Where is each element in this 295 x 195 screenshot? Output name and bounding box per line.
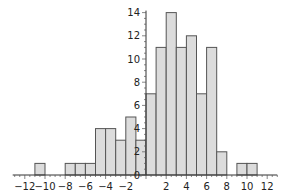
x-tick-label: −10 xyxy=(34,181,55,192)
histogram-bar xyxy=(96,129,106,175)
y-tick-label: 8 xyxy=(134,77,140,88)
histogram-chart: −12−10−8−6−4−22468101224681012140 xyxy=(0,0,295,195)
histogram-bar xyxy=(197,94,207,175)
histogram-bar xyxy=(35,163,45,175)
x-tick-label: 2 xyxy=(163,181,169,192)
histogram-bar xyxy=(237,163,247,175)
histogram-bar xyxy=(75,163,85,175)
x-tick-label: −4 xyxy=(98,181,113,192)
histogram-bar xyxy=(85,163,95,175)
histogram-bar xyxy=(116,140,126,175)
histogram-bar xyxy=(217,152,227,175)
y-tick-label: 4 xyxy=(134,123,140,134)
histogram-bar xyxy=(166,13,176,175)
x-tick-label: 4 xyxy=(183,181,189,192)
x-tick-label: 8 xyxy=(224,181,230,192)
histogram-bar xyxy=(176,47,186,175)
y-tick-label: 12 xyxy=(127,30,140,41)
y-tick-label: 6 xyxy=(134,100,140,111)
histogram-bar xyxy=(146,94,156,175)
x-tick-label: 12 xyxy=(261,181,274,192)
x-tick-label: −2 xyxy=(118,181,133,192)
histogram-bar xyxy=(156,47,166,175)
origin-label: 0 xyxy=(134,170,140,181)
histogram-bar xyxy=(65,163,75,175)
y-tick-label: 10 xyxy=(127,54,140,65)
histogram-bar xyxy=(106,129,116,175)
x-tick-label: −6 xyxy=(78,181,93,192)
x-tick-label: 6 xyxy=(203,181,209,192)
histogram-bar xyxy=(247,163,257,175)
histogram-bar xyxy=(186,36,196,175)
y-tick-label: 14 xyxy=(127,7,140,18)
y-tick-label: 2 xyxy=(134,146,140,157)
x-tick-label: −12 xyxy=(14,181,35,192)
x-tick-label: 10 xyxy=(241,181,254,192)
x-tick-label: −8 xyxy=(58,181,73,192)
histogram-bar xyxy=(207,47,217,175)
